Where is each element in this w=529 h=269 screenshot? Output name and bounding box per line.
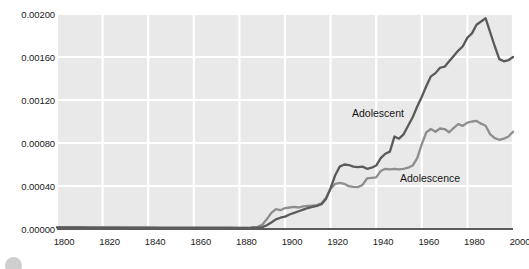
y-axis-tick: 0.00160 bbox=[3, 52, 55, 63]
x-axis-tick: 1920 bbox=[327, 236, 348, 247]
x-axis-line bbox=[57, 228, 513, 230]
page-corner-mark-icon bbox=[5, 257, 22, 269]
y-axis-tick: 0.00200 bbox=[3, 9, 55, 20]
y-axis-tick: 0.00080 bbox=[3, 138, 55, 149]
series-annotation-adolescent: Adolescent bbox=[352, 107, 404, 119]
x-axis-tick: 1800 bbox=[54, 236, 75, 247]
chart-screenshot: 0.000000.000400.000800.001200.001600.002… bbox=[0, 0, 529, 269]
series-lines bbox=[57, 14, 513, 229]
x-axis-tick: 1880 bbox=[236, 236, 257, 247]
y-axis-tick: 0.00120 bbox=[3, 95, 55, 106]
series-annotation-adolescence: Adolescence bbox=[400, 172, 460, 184]
x-axis-tick: 1820 bbox=[99, 236, 120, 247]
y-axis-tick-labels: 0.000000.000400.000800.001200.001600.002… bbox=[0, 0, 55, 269]
x-axis-tick: 1980 bbox=[464, 236, 485, 247]
x-axis-tick: 1900 bbox=[282, 236, 303, 247]
plot-area bbox=[57, 14, 513, 229]
x-axis-tick: 2000 bbox=[510, 236, 529, 247]
x-axis-tick: 1940 bbox=[373, 236, 394, 247]
x-axis-tick: 1860 bbox=[190, 236, 211, 247]
x-axis-tick: 1840 bbox=[145, 236, 166, 247]
x-axis-tick: 1960 bbox=[418, 236, 439, 247]
y-axis-tick: 0.00040 bbox=[3, 181, 55, 192]
y-axis-tick: 0.00000 bbox=[3, 224, 55, 235]
